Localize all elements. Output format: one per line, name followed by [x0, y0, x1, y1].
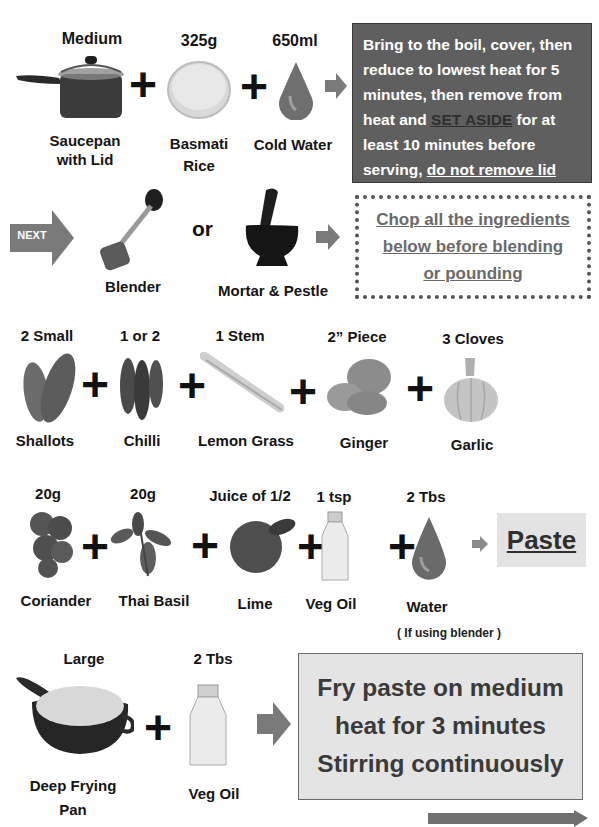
water-quantity: 2 Tbs: [406, 487, 445, 506]
shallots-label: Shallots: [16, 431, 74, 450]
oil-label: Veg Oil: [189, 784, 240, 803]
paste-result-box: Paste: [497, 513, 586, 567]
oil-quantity: 2 Tbs: [193, 649, 232, 668]
plus-icon: +: [289, 372, 317, 412]
shallots-quantity: 2 Small: [21, 326, 74, 345]
arrow-right-icon: [472, 536, 488, 552]
plus-icon: +: [144, 708, 172, 748]
ginger-icon: [325, 355, 397, 417]
arrow-right-icon: [257, 702, 291, 746]
plus-icon: +: [81, 365, 109, 405]
plus-icon: +: [240, 67, 268, 107]
basil-quantity: 20g: [130, 484, 156, 503]
saucepan-quantity: Medium: [62, 29, 122, 48]
water-drop-icon: [409, 515, 449, 581]
lemongrass-icon: [200, 352, 286, 414]
water-drop-icon: [276, 60, 316, 120]
garlic-quantity: 3 Cloves: [442, 329, 504, 348]
basil-label: Thai Basil: [119, 591, 190, 610]
plus-icon: +: [191, 526, 219, 566]
thai-basil-icon: [108, 508, 174, 578]
water-quantity: 650ml: [272, 31, 317, 50]
rice-quantity: 325g: [181, 31, 217, 50]
ginger-label: Ginger: [340, 433, 388, 452]
blender-note: ( If using blender ): [397, 626, 501, 640]
chilli-label: Chilli: [124, 431, 161, 450]
chop-instruction-box: Chop all the ingredients below before bl…: [355, 195, 591, 299]
saucepan-icon: [14, 54, 126, 120]
saucepan-label-2: with Lid: [57, 150, 114, 169]
set-aside-emphasis: SET ASIDE: [431, 111, 512, 128]
water-label: Water: [406, 597, 447, 616]
arrow-right-icon: [316, 224, 340, 250]
plus-icon: +: [81, 527, 109, 567]
instruction-line: Stirring continuously: [299, 745, 582, 783]
mortar-pestle-icon: [240, 186, 304, 268]
next-label: NEXT: [12, 229, 52, 241]
oil-bottle-icon: [318, 510, 352, 584]
lime-quantity: Juice of 1/2: [209, 486, 291, 505]
do-not-remove-lid: do not remove lid: [427, 161, 556, 178]
instruction-line: Chop all the ingredients: [376, 210, 570, 229]
instruction-line: Fry paste on medium: [299, 669, 582, 707]
rice-label-1: Basmati: [170, 134, 228, 153]
blender-label: Blender: [105, 277, 161, 296]
mortar-pestle-label: Mortar & Pestle: [218, 281, 328, 300]
instruction-line: or pounding: [423, 264, 522, 283]
garlic-icon: [441, 356, 501, 424]
plus-icon: +: [406, 369, 434, 409]
lime-icon: [228, 513, 296, 575]
lime-label: Lime: [237, 594, 272, 613]
coriander-label: Coriander: [21, 591, 92, 610]
pan-label-1: Deep Frying: [30, 776, 117, 795]
arrow-right-icon: [325, 73, 347, 99]
pan-label-2: Pan: [59, 800, 87, 819]
blender-icon: [96, 188, 166, 272]
oil-label: Veg Oil: [306, 594, 357, 613]
frying-pan-icon: [10, 672, 134, 758]
oil-bottle-icon: [186, 683, 230, 769]
chilli-icon: [118, 350, 166, 422]
rice-icon: [166, 60, 232, 120]
saucepan-label-1: Saucepan: [50, 131, 121, 150]
lemongrass-label: Lemon Grass: [198, 431, 294, 450]
plus-icon: +: [129, 65, 157, 105]
paste-label: Paste: [507, 525, 576, 555]
continue-arrow: [428, 810, 588, 827]
coriander-quantity: 20g: [35, 484, 61, 503]
instruction-line: heat for 3 minutes: [299, 707, 582, 745]
instruction-line: below before blending: [383, 237, 563, 256]
lemongrass-quantity: 1 Stem: [215, 326, 264, 345]
pan-quantity: Large: [64, 649, 105, 668]
ginger-quantity: 2” Piece: [327, 327, 386, 346]
oil-quantity: 1 tsp: [316, 487, 351, 506]
chilli-quantity: 1 or 2: [120, 326, 160, 345]
boil-instruction-box: Bring to the boil, cover, then reduce to…: [352, 23, 592, 183]
garlic-label: Garlic: [451, 435, 494, 454]
water-label: Cold Water: [254, 135, 333, 154]
rice-label-2: Rice: [183, 156, 215, 175]
shallots-icon: [18, 346, 84, 426]
coriander-icon: [26, 508, 76, 578]
fry-instruction-box: Fry paste on medium heat for 3 minutes S…: [298, 653, 583, 800]
or-label: or: [192, 217, 213, 241]
